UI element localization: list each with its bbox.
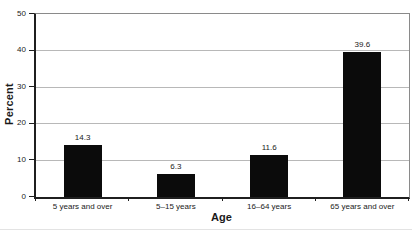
bar-value-label: 6.3 bbox=[156, 162, 196, 171]
x-category-label: 65 years and over bbox=[315, 202, 409, 211]
y-tick-label: 50 bbox=[6, 9, 26, 18]
y-tick-mark bbox=[29, 196, 34, 197]
bar-value-label: 14.3 bbox=[63, 133, 103, 142]
y-tick-mark bbox=[29, 86, 34, 87]
x-tick-mark bbox=[315, 198, 316, 201]
bar bbox=[157, 174, 195, 197]
y-tick-mark bbox=[29, 123, 34, 124]
bar-value-label: 11.6 bbox=[249, 143, 289, 152]
y-tick-label: 20 bbox=[6, 118, 26, 127]
chart-figure: Percent Age 0102030405014.35 years and o… bbox=[0, 0, 412, 232]
bottom-rule bbox=[0, 229, 412, 230]
y-axis-title: Percent bbox=[3, 54, 15, 154]
y-tick-label: 0 bbox=[6, 192, 26, 201]
bar bbox=[64, 145, 102, 197]
x-tick-mark bbox=[222, 198, 223, 201]
x-tick-mark bbox=[128, 198, 129, 201]
x-category-label: 5 years and over bbox=[36, 202, 130, 211]
x-category-label: 5–15 years bbox=[129, 202, 223, 211]
y-tick-mark bbox=[29, 13, 34, 14]
y-tick-label: 30 bbox=[6, 82, 26, 91]
y-tick-mark bbox=[29, 50, 34, 51]
gridline bbox=[36, 50, 409, 51]
x-axis-title: Age bbox=[34, 211, 409, 223]
x-tick-mark bbox=[408, 198, 409, 201]
y-tick-label: 10 bbox=[6, 155, 26, 164]
bar-value-label: 39.6 bbox=[342, 40, 382, 49]
bar bbox=[343, 52, 381, 197]
y-tick-mark bbox=[29, 159, 34, 160]
x-tick-mark bbox=[35, 198, 36, 201]
x-category-label: 16–64 years bbox=[222, 202, 316, 211]
y-tick-label: 40 bbox=[6, 45, 26, 54]
bar bbox=[250, 155, 288, 197]
